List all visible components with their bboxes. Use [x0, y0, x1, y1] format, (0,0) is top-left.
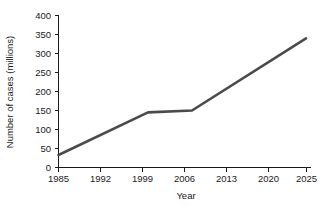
- x-tick-label: 2025: [296, 173, 317, 184]
- x-tick-label: 1992: [90, 173, 111, 184]
- x-tick-label: 2013: [216, 173, 237, 184]
- chart-figure: 400 350 300 250 200 150 100 50 0 1985 19…: [0, 0, 324, 208]
- x-tick-label: 1999: [132, 173, 153, 184]
- y-axis-title: Number of cases (millions): [4, 36, 15, 148]
- y-tick-label: 200: [35, 86, 51, 97]
- y-tick-label: 50: [40, 143, 51, 154]
- y-tick-label: 250: [35, 67, 51, 78]
- x-tick-label: 1985: [48, 173, 69, 184]
- y-tick-label: 300: [35, 48, 51, 59]
- y-tick-label: 150: [35, 105, 51, 116]
- line-chart: 400 350 300 250 200 150 100 50 0 1985 19…: [0, 0, 324, 208]
- y-tick-label: 350: [35, 29, 51, 40]
- y-tick-label: 0: [46, 162, 51, 173]
- x-tick-label: 2020: [258, 173, 279, 184]
- x-tick-label: 2006: [174, 173, 195, 184]
- y-tick-label: 400: [35, 10, 51, 21]
- y-tick-label: 100: [35, 124, 51, 135]
- x-axis-title: Year: [176, 190, 195, 201]
